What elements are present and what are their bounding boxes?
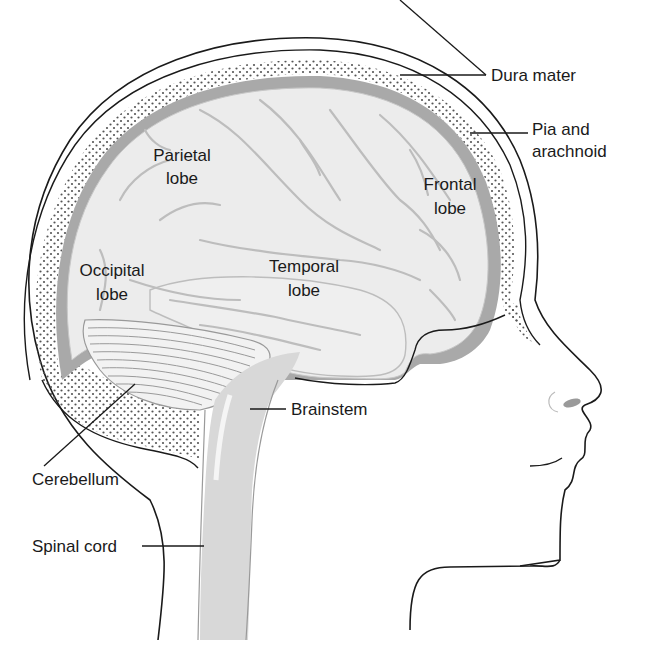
label-pia-arachnoid-line1: Pia and — [532, 120, 590, 140]
label-dura-mater: Dura mater — [491, 66, 576, 86]
label-frontal-lobe-line1: Frontal — [414, 175, 486, 195]
label-pia-arachnoid-line2: arachnoid — [532, 142, 607, 162]
nose-wing — [549, 392, 558, 412]
label-spinal-cord: Spinal cord — [32, 537, 117, 557]
nostril — [562, 397, 581, 409]
label-occipital-lobe-line1: Occipital — [71, 261, 153, 281]
label-brainstem: Brainstem — [291, 400, 368, 420]
label-parietal-lobe-line1: Parietal — [145, 146, 219, 166]
label-occipital-lobe-line2: lobe — [71, 285, 153, 305]
jaw-outline — [410, 560, 560, 630]
label-temporal-lobe-line2: lobe — [260, 281, 348, 301]
mouth-line — [530, 458, 562, 466]
label-cerebellum: Cerebellum — [32, 470, 119, 490]
brain-anatomy-diagram: Dura mater Pia and arachnoid Parietal lo… — [0, 0, 653, 655]
label-temporal-lobe-line1: Temporal — [260, 257, 348, 277]
label-parietal-lobe-line2: lobe — [145, 169, 219, 189]
label-frontal-lobe-line2: lobe — [414, 199, 486, 219]
dura-mater-leader — [400, 0, 486, 75]
